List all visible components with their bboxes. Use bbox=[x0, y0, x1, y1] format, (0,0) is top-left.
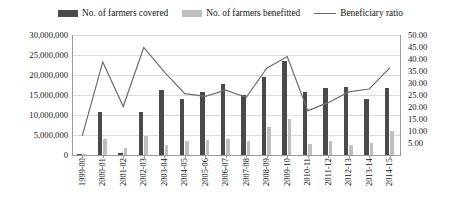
bar-farmers-benefitted bbox=[144, 136, 148, 155]
bar-farmers-benefitted bbox=[390, 131, 394, 155]
category-tick-label: 2003-04 bbox=[160, 158, 169, 186]
category-tick-label: 2010-11 bbox=[303, 158, 312, 186]
category-tick-label: 2009-10 bbox=[283, 158, 292, 186]
legend-label-beneficiary-ratio: Beneficiary ratio bbox=[340, 8, 403, 18]
bar-farmers-benefitted bbox=[83, 154, 87, 155]
bar-farmers-covered bbox=[344, 87, 348, 155]
right-axis-tick-label: 20.00 bbox=[408, 103, 427, 112]
bar-farmers-covered bbox=[159, 90, 163, 155]
bar-group bbox=[195, 35, 216, 155]
bar-farmers-benefitted bbox=[206, 140, 210, 155]
bar-group bbox=[134, 35, 155, 155]
category-tick-label: 2011-12 bbox=[324, 158, 333, 186]
bar-farmers-benefitted bbox=[308, 144, 312, 155]
right-axis-tick-label: 35.00 bbox=[408, 67, 427, 76]
bar-group bbox=[318, 35, 339, 155]
category-tick-label: 2004-05 bbox=[180, 158, 189, 186]
right-axis-tick-label: 25.00 bbox=[408, 91, 427, 100]
legend-swatch-bar-dark-icon bbox=[58, 10, 78, 17]
right-percentage-axis: 5.0010.0015.0020.0025.0030.0035.0040.004… bbox=[404, 24, 458, 155]
category-tick-label: 2005-06 bbox=[201, 158, 210, 186]
right-axis-tick-label: 40.00 bbox=[408, 55, 427, 64]
legend-swatch-bar-light-icon bbox=[182, 10, 202, 17]
chart-legend: No. of farmers covered No. of farmers be… bbox=[0, 4, 461, 22]
bar-group bbox=[216, 35, 237, 155]
bar-farmers-benefitted bbox=[370, 143, 374, 155]
bar-group bbox=[359, 35, 380, 155]
right-axis-tick-label: 10.00 bbox=[408, 127, 427, 136]
right-axis-tick-label: 30.00 bbox=[408, 79, 427, 88]
bar-farmers-covered bbox=[364, 99, 368, 155]
bar-group bbox=[154, 35, 175, 155]
left-axis-tick-label: 15,000,000 bbox=[29, 91, 68, 100]
right-axis-tick-label: 50.00 bbox=[408, 31, 427, 40]
legend-label-farmers-benefitted: No. of farmers benefitted bbox=[206, 8, 300, 18]
bar-farmers-benefitted bbox=[288, 119, 292, 155]
category-axis: 1999-002000-012001-022002-032003-042004-… bbox=[72, 158, 400, 213]
bar-group bbox=[175, 35, 196, 155]
category-tick-label: 2014-15 bbox=[385, 158, 394, 186]
left-value-axis: 05,000,00010,000,00015,000,00020,000,000… bbox=[6, 24, 68, 155]
bar-farmers-covered bbox=[303, 92, 307, 155]
bar-group bbox=[257, 35, 278, 155]
plot-wrapper: 05,000,00010,000,00015,000,00020,000,000… bbox=[0, 24, 461, 213]
bar-farmers-covered bbox=[323, 88, 327, 155]
bar-farmers-benefitted bbox=[103, 139, 107, 155]
bar-farmers-benefitted bbox=[165, 145, 169, 155]
left-axis-tick-label: 20,000,000 bbox=[29, 71, 68, 80]
left-axis-tick-label: 30,000,000 bbox=[29, 31, 68, 40]
category-tick-label: 2012-13 bbox=[344, 158, 353, 186]
right-axis-tick-label: 45.00 bbox=[408, 43, 427, 52]
bar-farmers-covered bbox=[262, 77, 266, 155]
bar-farmers-benefitted bbox=[226, 139, 230, 155]
legend-label-farmers-covered: No. of farmers covered bbox=[82, 8, 168, 18]
bar-group bbox=[339, 35, 360, 155]
bar-farmers-benefitted bbox=[247, 141, 251, 155]
bar-group bbox=[93, 35, 114, 155]
bar-farmers-covered bbox=[241, 95, 245, 155]
bar-farmers-covered bbox=[282, 61, 286, 155]
bar-group bbox=[380, 35, 401, 155]
category-tick-label: 2002-03 bbox=[139, 158, 148, 186]
bar-farmers-benefitted bbox=[329, 141, 333, 155]
bar-group bbox=[113, 35, 134, 155]
category-tick-label: 2001-02 bbox=[119, 158, 128, 186]
bar-farmers-covered bbox=[385, 88, 389, 155]
left-axis-tick-label: 0 bbox=[64, 151, 68, 160]
legend-item-farmers-benefitted: No. of farmers benefitted bbox=[182, 8, 300, 18]
category-tick-label: 2007-08 bbox=[242, 158, 251, 186]
bar-farmers-covered bbox=[98, 112, 102, 155]
left-axis-tick-label: 5,000,000 bbox=[34, 131, 68, 140]
bar-farmers-covered bbox=[221, 84, 225, 155]
category-tick-label: 2013-14 bbox=[365, 158, 374, 186]
right-axis-tick-label: 15.00 bbox=[408, 115, 427, 124]
right-axis-line bbox=[400, 35, 401, 156]
bar-group bbox=[298, 35, 319, 155]
bar-farmers-covered bbox=[180, 99, 184, 155]
bar-farmers-benefitted bbox=[124, 148, 128, 155]
bar-farmers-covered bbox=[139, 112, 143, 155]
category-tick-label: 2006-07 bbox=[221, 158, 230, 186]
legend-item-farmers-covered: No. of farmers covered bbox=[58, 8, 168, 18]
category-tick-label: 2000-01 bbox=[98, 158, 107, 186]
bar-farmers-covered bbox=[77, 154, 81, 155]
bar-farmers-benefitted bbox=[185, 141, 189, 155]
bar-farmers-benefitted bbox=[267, 127, 271, 155]
legend-item-beneficiary-ratio: Beneficiary ratio bbox=[314, 8, 403, 18]
left-axis-tick-label: 10,000,000 bbox=[29, 111, 68, 120]
beneficiary-ratio-chart: No. of farmers covered No. of farmers be… bbox=[0, 0, 461, 213]
category-tick-label: 1999-00 bbox=[78, 158, 87, 186]
bar-group bbox=[277, 35, 298, 155]
left-axis-tick-label: 25,000,000 bbox=[29, 51, 68, 60]
bar-farmers-benefitted bbox=[349, 145, 353, 155]
right-axis-tick-label: 5.00 bbox=[408, 139, 423, 148]
legend-swatch-line-icon bbox=[314, 13, 336, 14]
bar-group bbox=[236, 35, 257, 155]
bars-layer bbox=[72, 35, 400, 155]
bar-farmers-covered bbox=[118, 153, 122, 155]
category-tick-label: 2008-09 bbox=[262, 158, 271, 186]
bar-group bbox=[72, 35, 93, 155]
bar-farmers-covered bbox=[200, 92, 204, 155]
